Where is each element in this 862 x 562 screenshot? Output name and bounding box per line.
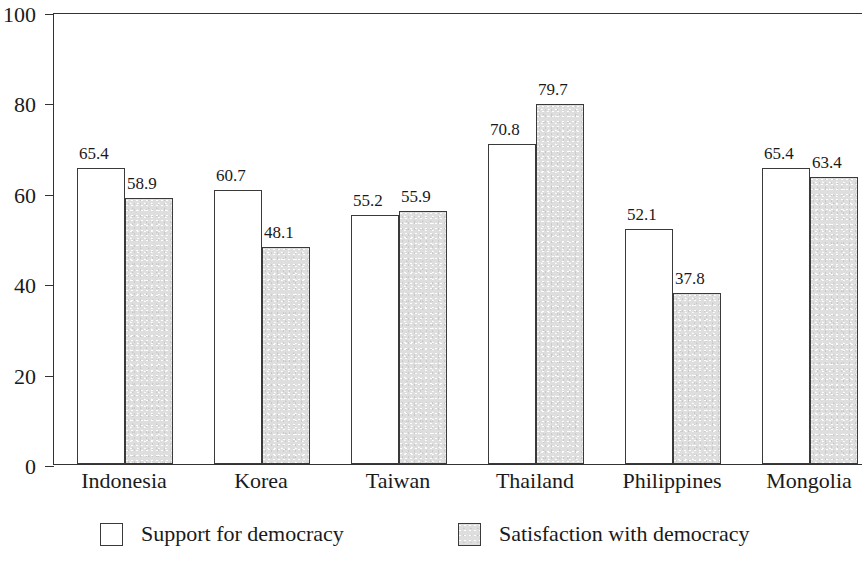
bar-satisfaction	[673, 293, 721, 464]
y-axis-tick-label: 60	[14, 185, 36, 207]
bar-support	[625, 229, 673, 464]
legend-label: Support for democracy	[141, 523, 344, 545]
y-axis-tick: 40	[45, 285, 54, 286]
bar-value-label: 63.4	[812, 154, 842, 171]
bar-group: 70.879.7	[488, 14, 584, 464]
gray-square-swatch	[458, 523, 481, 546]
y-axis-tick-label: 100	[3, 4, 36, 26]
bar-satisfaction	[125, 198, 173, 464]
legend-label: Satisfaction with democracy	[499, 523, 749, 545]
bar-satisfaction	[810, 177, 858, 464]
bar-value-label: 60.7	[216, 167, 246, 184]
bars-layer: 65.458.960.748.155.255.970.879.752.137.8…	[54, 14, 862, 464]
x-axis-label-philippines: Philippines	[602, 470, 742, 492]
y-axis-tick-label: 0	[25, 456, 36, 478]
y-axis-tick: 100	[45, 14, 54, 15]
bar-support	[351, 215, 399, 465]
y-axis-tick: 80	[45, 104, 54, 105]
x-axis-label-taiwan: Taiwan	[328, 470, 468, 492]
bar-value-label: 65.4	[79, 145, 109, 162]
legend-item: Support for democracy	[100, 519, 344, 549]
bar-support	[77, 168, 125, 464]
legend-item: Satisfaction with democracy	[458, 519, 749, 549]
y-axis-tick: 60	[45, 195, 54, 196]
bar-value-label: 48.1	[264, 224, 294, 241]
bar-value-label: 65.4	[764, 145, 794, 162]
bar-group: 65.458.9	[77, 14, 173, 464]
y-axis-tick: 0	[45, 466, 54, 467]
bar-satisfaction	[536, 104, 584, 464]
y-axis-tick-label: 20	[14, 366, 36, 388]
bar-value-label: 70.8	[490, 121, 520, 138]
bar-group: 52.137.8	[625, 14, 721, 464]
bar-group: 60.748.1	[214, 14, 310, 464]
plot-area: 65.458.960.748.155.255.970.879.752.137.8…	[53, 13, 862, 465]
chart-legend: Support for democracySatisfaction with d…	[0, 519, 862, 555]
x-axis-label-thailand: Thailand	[465, 470, 605, 492]
bar-support	[214, 190, 262, 464]
bar-group: 55.255.9	[351, 14, 447, 464]
x-axis-label-mongolia: Mongolia	[739, 470, 862, 492]
bar-value-label: 55.9	[401, 188, 431, 205]
bar-value-label: 55.2	[353, 192, 383, 209]
bar-satisfaction	[399, 211, 447, 464]
y-axis-tick-label: 40	[14, 275, 36, 297]
bar-value-label: 52.1	[627, 206, 657, 223]
bar-value-label: 58.9	[127, 175, 157, 192]
bar-chart-figure: 65.458.960.748.155.255.970.879.752.137.8…	[0, 0, 862, 562]
bar-satisfaction	[262, 247, 310, 464]
bar-value-label: 79.7	[538, 81, 568, 98]
x-axis-label-indonesia: Indonesia	[54, 470, 194, 492]
bar-group: 65.463.4	[762, 14, 858, 464]
y-axis-tick-label: 80	[14, 94, 36, 116]
x-axis-label-korea: Korea	[191, 470, 331, 492]
white-square-swatch	[100, 523, 123, 546]
y-axis-tick: 20	[45, 376, 54, 377]
bar-support	[488, 144, 536, 464]
bar-value-label: 37.8	[675, 270, 705, 287]
bar-support	[762, 168, 810, 464]
